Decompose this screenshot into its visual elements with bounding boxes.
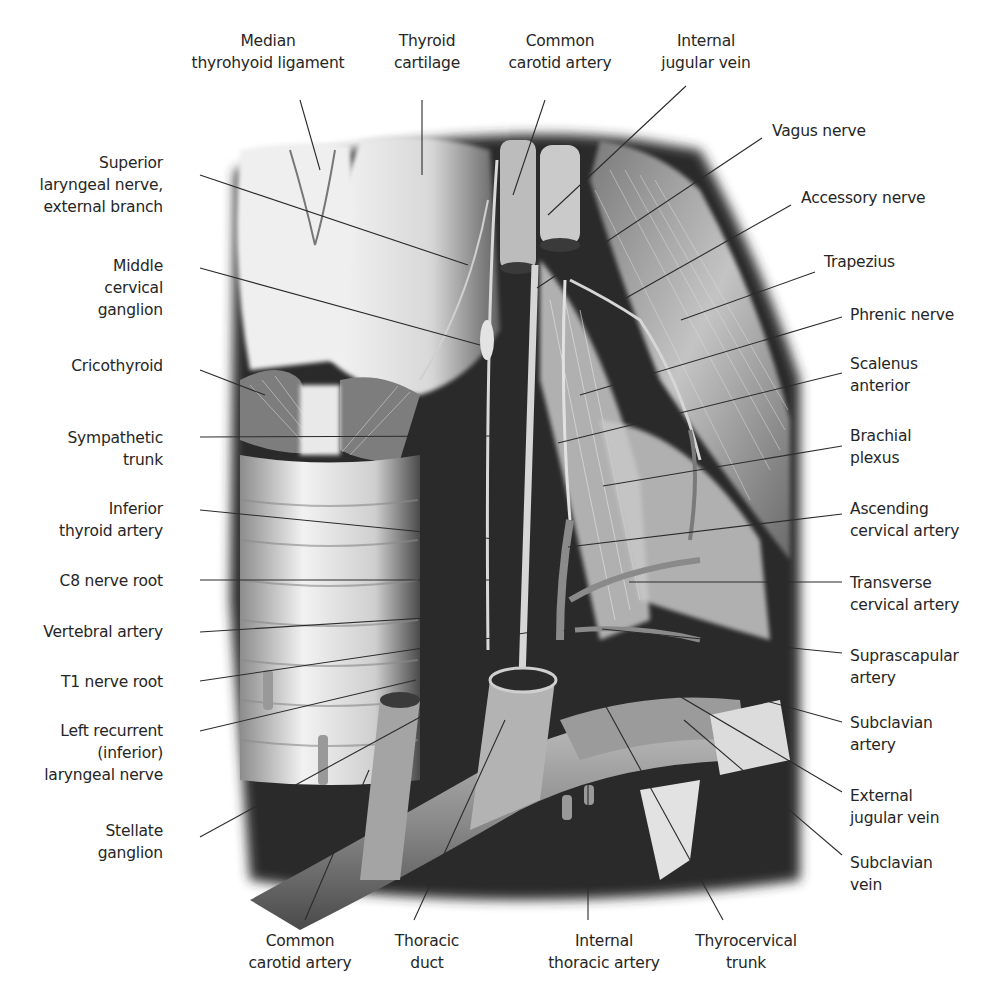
label-brachial-plexus: Brachial plexus xyxy=(850,425,911,469)
internal-jugular-upper xyxy=(540,145,580,245)
label-common-carotid-artery-bottom: Common carotid artery xyxy=(249,930,352,974)
label-common-carotid-artery-top: Common carotid artery xyxy=(509,30,612,74)
label-suprascapular-artery: Suprascapular artery xyxy=(850,645,959,689)
label-sympathetic-trunk: Sympathetic trunk xyxy=(67,427,163,471)
anatomy-figure: Median thyrohyoid ligament Thyroid carti… xyxy=(0,0,993,996)
label-accessory-nerve: Accessory nerve xyxy=(801,187,925,209)
label-phrenic-nerve: Phrenic nerve xyxy=(850,304,954,326)
label-left-recurrent-laryngeal-nerve: Left recurrent (inferior) laryngeal nerv… xyxy=(44,720,163,786)
label-t1-nerve-root: T1 nerve root xyxy=(61,671,163,693)
label-middle-cervical-ganglion: Middle cervical ganglion xyxy=(98,255,163,321)
label-trapezius: Trapezius xyxy=(824,251,895,273)
label-thyrocervical-trunk: Thyrocervical trunk xyxy=(695,930,797,974)
label-transverse-cervical-artery: Transverse cervical artery xyxy=(850,572,959,616)
label-scalenus-anterior: Scalenus anterior xyxy=(850,353,918,397)
label-ascending-cervical-artery: Ascending cervical artery xyxy=(850,498,959,542)
label-median-thyrohyoid-ligament: Median thyrohyoid ligament xyxy=(192,30,345,74)
label-internal-thoracic-artery: Internal thoracic artery xyxy=(548,930,660,974)
label-stellate-ganglion: Stellate ganglion xyxy=(98,820,163,864)
label-superior-laryngeal-nerve: Superior laryngeal nerve, external branc… xyxy=(40,152,163,218)
label-vagus-nerve: Vagus nerve xyxy=(772,120,866,142)
label-vertebral-artery: Vertebral artery xyxy=(43,621,163,643)
label-inferior-thyroid-artery: Inferior thyroid artery xyxy=(59,498,163,542)
label-thoracic-duct: Thoracic duct xyxy=(395,930,459,974)
label-thyroid-cartilage: Thyroid cartilage xyxy=(394,30,460,74)
label-subclavian-artery: Subclavian artery xyxy=(850,712,933,756)
label-c8-nerve-root: C8 nerve root xyxy=(60,570,163,592)
common-carotid-upper xyxy=(500,140,536,270)
thyrohyoid-membrane-shape xyxy=(237,143,354,370)
label-cricothyroid: Cricothyroid xyxy=(71,355,163,377)
label-internal-jugular-vein: Internal jugular vein xyxy=(661,30,750,74)
label-external-jugular-vein: External jugular vein xyxy=(850,785,939,829)
thyroid-cartilage-shape xyxy=(328,137,500,395)
label-subclavian-vein: Subclavian vein xyxy=(850,852,933,896)
